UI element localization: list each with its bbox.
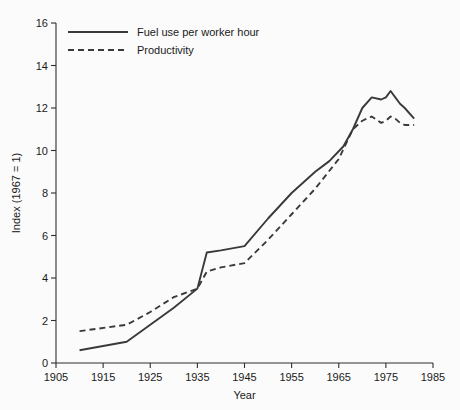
legend-label-fuel-use: Fuel use per worker hour — [137, 26, 260, 38]
x-tick-label: 1945 — [232, 371, 256, 383]
x-tick-label: 1965 — [327, 371, 351, 383]
x-tick-label: 1935 — [185, 371, 209, 383]
y-axis-title: Index (1967 = 1) — [10, 153, 22, 233]
y-tick-label: 4 — [42, 272, 48, 284]
y-tick-label: 6 — [42, 230, 48, 242]
x-tick-label: 1905 — [44, 371, 68, 383]
y-tick-label: 12 — [36, 102, 48, 114]
plot-background — [0, 0, 460, 410]
x-tick-label: 1985 — [421, 371, 445, 383]
chart-container: 0246810121416190519151925193519451955196… — [0, 0, 460, 410]
legend-label-productivity: Productivity — [137, 44, 194, 56]
y-tick-label: 2 — [42, 315, 48, 327]
line-chart: 0246810121416190519151925193519451955196… — [0, 0, 460, 410]
x-axis-title: Year — [233, 389, 256, 401]
x-tick-label: 1955 — [279, 371, 303, 383]
y-tick-label: 16 — [36, 17, 48, 29]
y-tick-label: 0 — [42, 357, 48, 369]
x-tick-label: 1915 — [91, 371, 115, 383]
y-tick-label: 14 — [36, 60, 48, 72]
y-tick-label: 10 — [36, 145, 48, 157]
y-tick-label: 8 — [42, 187, 48, 199]
x-tick-label: 1925 — [138, 371, 162, 383]
x-tick-label: 1975 — [374, 371, 398, 383]
